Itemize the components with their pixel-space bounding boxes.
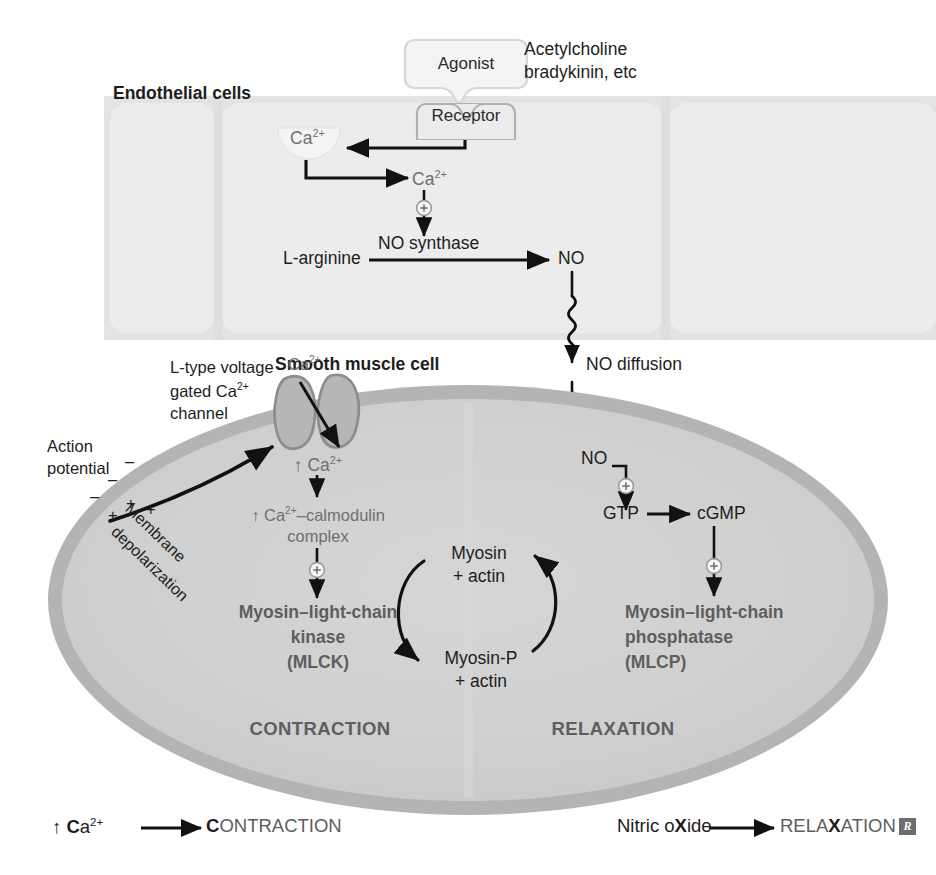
no-diffusion-label: NO diffusion: [586, 355, 682, 375]
plus-circle-icon: [707, 559, 722, 574]
charge-negative-3: –: [90, 487, 99, 505]
cgmp-label: cGMP: [697, 504, 746, 524]
legend-right-source: Nitric oXide: [617, 816, 712, 837]
mlcp-line3: (MLCP): [625, 653, 686, 673]
mlcp-line2: phosphatase: [625, 628, 733, 648]
action-potential-line1: Action: [47, 437, 93, 455]
mlck-line1: Myosin–light-chain: [239, 603, 397, 623]
calcium-influx-label: Ca2+: [288, 354, 321, 373]
rx-badge-icon: R: [899, 818, 916, 835]
legend-right-target: RELAXATION: [780, 816, 896, 837]
mlck-line2: kinase: [291, 628, 345, 648]
legend-left-target: CONTRACTION: [206, 816, 342, 837]
plus-circle-icon: [310, 563, 325, 578]
charge-positive-3: +: [108, 506, 118, 524]
myosin-actin-line1: Myosin: [451, 544, 506, 564]
endothelial-cells-title: Endothelial cells: [113, 84, 251, 104]
calcium-store-label: Ca2+: [290, 127, 325, 148]
myosin-actin-line2: + actin: [453, 567, 505, 587]
agonist-label: Agonist: [404, 54, 528, 74]
ca-calmodulin-line2: complex: [287, 527, 348, 545]
no-synthase-label: NO synthase: [378, 234, 479, 254]
myosin-p-actin-line1: Myosin-P: [445, 649, 518, 669]
legend-left-source: ↑ Ca2+: [52, 816, 103, 838]
mlck-line3: (MLCK): [287, 653, 349, 673]
relaxation-label: RELAXATION: [552, 719, 675, 740]
receptor-label: Receptor: [404, 106, 528, 126]
l-type-channel-line1: L-type voltage: [170, 358, 274, 376]
gtp-label: GTP: [603, 504, 639, 524]
myosin-p-actin-line2: + actin: [455, 672, 507, 692]
ca-calmodulin-line1: ↑ Ca2+–calmodulin: [251, 505, 385, 524]
plus-circle-icon: [417, 201, 432, 216]
action-potential-line2: potential: [47, 459, 109, 477]
no-endothelial-label: NO: [558, 249, 584, 269]
agonist-example-1: Acetylcholine: [524, 40, 627, 60]
charge-negative-1: –: [125, 452, 134, 470]
charge-negative-2: –: [108, 470, 117, 488]
plus-circle-icon: [619, 479, 634, 494]
l-type-channel-line2: gated Ca2+: [170, 381, 249, 400]
mlcp-line1: Myosin–light-chain: [625, 603, 783, 623]
diagram-canvas: Agonist Receptor Endothelial cells Acety…: [0, 0, 936, 875]
cytosolic-calcium-label: Ca2+: [412, 168, 447, 189]
calcium-increase-label: ↑ Ca2+: [294, 454, 342, 475]
l-type-channel-line3: channel: [170, 404, 228, 422]
contraction-label: CONTRACTION: [249, 719, 390, 740]
no-smc-label: NO: [581, 449, 607, 469]
l-arginine-label: L-arginine: [283, 249, 361, 269]
agonist-example-2: bradykinin, etc: [524, 63, 637, 83]
